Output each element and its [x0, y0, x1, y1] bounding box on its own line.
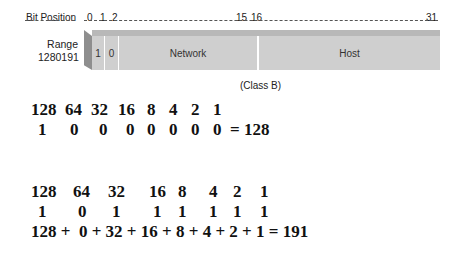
bit-tick-2: 2: [112, 12, 118, 23]
range-label: Range: [44, 38, 78, 50]
weight: 16: [118, 100, 135, 120]
weight: 128: [31, 182, 57, 202]
class-bit-0: 0: [105, 36, 118, 70]
weight: 8: [178, 182, 187, 202]
bit: 0: [70, 120, 79, 140]
weight: 2: [191, 100, 200, 120]
bit: 1: [260, 202, 269, 222]
bit-tick-16: 16: [251, 12, 262, 23]
bit: 0: [147, 120, 156, 140]
bit: 1: [178, 202, 187, 222]
bit-tick-1: 1: [100, 12, 106, 23]
bit: 1: [38, 120, 47, 140]
bit: 1: [233, 202, 242, 222]
weight: 8: [147, 100, 156, 120]
host-field: Host: [259, 36, 440, 70]
bit: 0: [99, 120, 108, 140]
bit: 0: [126, 120, 135, 140]
weight: 2: [233, 182, 242, 202]
weight: 1: [260, 182, 269, 202]
bit: 0: [78, 202, 87, 222]
bit: 1: [38, 202, 47, 222]
bit-position-underline: [25, 20, 75, 21]
bit-tick-0: 0: [87, 12, 93, 23]
bit-tick-31: 31: [426, 12, 437, 23]
sum-equation: 128 + 0 + 32 + 16 + 8 + 4 + 2 + 1 = 191: [31, 222, 308, 242]
bit-position-label: Bit Position: [26, 12, 76, 23]
bit: 0: [169, 120, 178, 140]
bit: 0: [213, 120, 222, 140]
weight: 32: [91, 100, 108, 120]
range-value: 1280191: [38, 51, 78, 63]
weight: 64: [65, 100, 82, 120]
class-bit-1: 1: [92, 36, 104, 70]
bit: 1: [209, 202, 218, 222]
weight: 64: [73, 182, 90, 202]
weight: 16: [149, 182, 166, 202]
weight: 4: [169, 100, 178, 120]
class-caption: (Class B): [240, 80, 281, 91]
bit-axis-dashes: [84, 20, 438, 21]
weight: 128: [31, 100, 57, 120]
bit: 1: [153, 202, 162, 222]
network-field: Network: [119, 36, 257, 70]
bit-tick-15: 15: [236, 12, 247, 23]
bar-side-face: [84, 30, 92, 70]
weight: 4: [209, 182, 218, 202]
weight: 32: [108, 182, 125, 202]
result: = 128: [230, 120, 269, 140]
bit: 1: [112, 202, 121, 222]
weight: 1: [213, 100, 222, 120]
bit: 0: [191, 120, 200, 140]
